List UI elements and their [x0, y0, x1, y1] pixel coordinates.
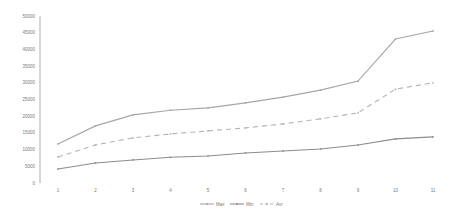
x-tick-label: 1 [57, 188, 60, 193]
data-point-marker [245, 102, 247, 104]
series-lines [57, 30, 434, 170]
data-point-marker [207, 155, 209, 157]
data-point-marker [432, 82, 434, 84]
data-point-marker [95, 125, 97, 127]
legend-marker [266, 203, 268, 205]
x-tick-label: 6 [244, 188, 247, 193]
data-point-marker [170, 109, 172, 111]
data-point-marker [282, 123, 284, 125]
data-point-marker [207, 107, 209, 109]
x-axis-ticks: 1234567891011 [57, 188, 436, 193]
legend: MaxMinAvr [200, 202, 283, 207]
data-point-marker [132, 137, 134, 139]
data-point-marker [395, 88, 397, 90]
data-point-marker [395, 38, 397, 40]
data-point-marker [170, 133, 172, 135]
x-tick-label: 7 [282, 188, 285, 193]
x-tick-label: 11 [431, 188, 436, 193]
y-tick-label: 10000 [22, 147, 35, 152]
legend-label-min: Min [246, 202, 254, 207]
y-tick-label: 5000 [25, 164, 36, 169]
data-point-marker [320, 148, 322, 150]
y-tick-label: 15000 [22, 130, 35, 135]
data-point-marker [432, 136, 434, 138]
data-point-marker [395, 138, 397, 140]
data-point-marker [357, 112, 359, 114]
data-point-marker [320, 89, 322, 91]
y-tick-label: 25000 [22, 97, 35, 102]
y-tick-label: 0 [32, 181, 35, 186]
y-tick-label: 50000 [22, 14, 35, 19]
data-point-marker [170, 156, 172, 158]
y-tick-label: 40000 [22, 47, 35, 52]
series-line-max [58, 31, 433, 144]
data-point-marker [282, 150, 284, 152]
data-point-marker [320, 118, 322, 120]
line-chart: 0500010000150002000025000300003500040000… [0, 0, 465, 220]
x-tick-label: 2 [94, 188, 97, 193]
x-tick-label: 9 [357, 188, 360, 193]
data-point-marker [57, 143, 59, 145]
y-tick-label: 30000 [22, 80, 35, 85]
y-axis-ticks: 0500010000150002000025000300003500040000… [22, 14, 35, 186]
data-point-marker [357, 144, 359, 146]
legend-label-avr: Avr [276, 202, 283, 207]
x-tick-label: 10 [393, 188, 399, 193]
data-point-marker [207, 130, 209, 132]
x-tick-label: 4 [169, 188, 172, 193]
legend-marker [206, 203, 208, 205]
y-tick-label: 45000 [22, 30, 35, 35]
x-tick-label: 8 [319, 188, 322, 193]
legend-marker [236, 203, 238, 205]
y-tick-label: 20000 [22, 114, 35, 119]
data-point-marker [95, 144, 97, 146]
x-tick-label: 5 [207, 188, 210, 193]
data-point-marker [57, 168, 59, 170]
data-point-marker [57, 156, 59, 158]
data-point-marker [132, 159, 134, 161]
x-tick-label: 3 [132, 188, 135, 193]
data-point-marker [357, 80, 359, 82]
data-point-marker [245, 127, 247, 129]
data-point-marker [95, 162, 97, 164]
data-point-marker [282, 96, 284, 98]
data-point-marker [432, 30, 434, 32]
y-tick-label: 35000 [22, 64, 35, 69]
data-point-marker [132, 114, 134, 116]
legend-label-max: Max [216, 202, 225, 207]
data-point-marker [245, 152, 247, 154]
